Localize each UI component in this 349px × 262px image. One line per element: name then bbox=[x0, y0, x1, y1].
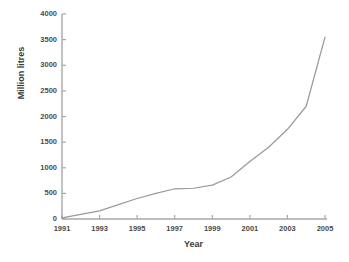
chart-plot-svg bbox=[0, 0, 349, 262]
chart-figure: Million litres Year 0 500 1000 1500 2000… bbox=[0, 0, 349, 262]
data-series-line bbox=[62, 37, 325, 218]
